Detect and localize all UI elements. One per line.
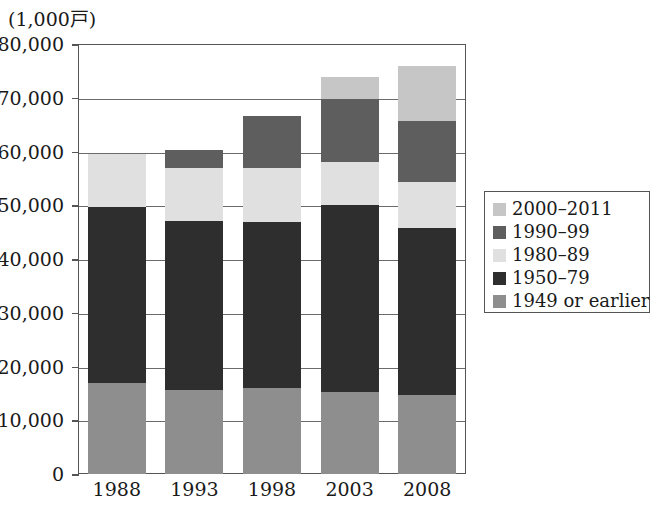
x-axis-tick-label: 1993 (170, 478, 218, 500)
y-axis-unit-label: (1,000戸) (8, 4, 96, 31)
y-axis-tick-label: 20,000 (0, 356, 64, 378)
bar-segment (398, 182, 456, 228)
y-axis-tick-label: 0 (52, 463, 64, 485)
y-axis-tick-mark (72, 474, 79, 476)
y-axis-tick-mark (72, 420, 79, 422)
bar-segment (321, 77, 379, 99)
y-axis-tick-label: 40,000 (0, 248, 64, 270)
bar-segment (321, 162, 379, 205)
legend: 2000–20111990–991980–891950–791949 or ea… (484, 191, 650, 313)
legend-swatch-icon (493, 295, 506, 308)
legend-swatch-icon (493, 249, 506, 262)
bar-segment (88, 383, 146, 474)
bar-segment (321, 205, 379, 392)
legend-label: 1949 or earlier (512, 292, 649, 310)
x-axis-labels: 19881993199820032008 (78, 478, 466, 504)
y-axis-tick-label: 10,000 (0, 409, 64, 431)
y-axis-tick-mark (72, 313, 79, 315)
bar-segment (398, 395, 456, 474)
bar-segment (321, 99, 379, 162)
x-axis-tick-label: 1988 (93, 478, 141, 500)
bar-segment (165, 390, 223, 474)
y-axis-tick-label: 60,000 (0, 141, 64, 163)
y-axis-tick-label: 80,000 (0, 33, 64, 55)
bar-segment (321, 392, 379, 474)
legend-label: 1950–79 (512, 269, 590, 287)
y-axis-tick-mark (72, 259, 79, 261)
legend-item[interactable]: 1980–89 (493, 244, 643, 266)
bars-layer (78, 44, 466, 474)
y-axis-tick-label: 30,000 (0, 302, 64, 324)
bar-segment (165, 150, 223, 168)
x-axis-tick-label: 2003 (325, 478, 373, 500)
legend-item[interactable]: 1949 or earlier (493, 290, 643, 312)
bar-group-2003 (321, 44, 379, 474)
bar-segment (165, 221, 223, 390)
bar-segment (243, 388, 301, 474)
legend-item[interactable]: 2000–2011 (493, 198, 643, 220)
bar-segment (243, 168, 301, 222)
legend-item[interactable]: 1990–99 (493, 221, 643, 243)
y-axis-tick-mark (72, 205, 79, 207)
y-axis-tick-mark (72, 44, 79, 46)
y-axis-tick-label: 70,000 (0, 87, 64, 109)
bar-group-1993 (165, 44, 223, 474)
legend-label: 1990–99 (512, 223, 590, 241)
legend-swatch-icon (493, 203, 506, 216)
legend-label: 1980–89 (512, 246, 590, 264)
bar-group-1998 (243, 44, 301, 474)
y-axis-tick-label: 50,000 (0, 194, 64, 216)
bar-segment (88, 207, 146, 383)
bar-segment (165, 168, 223, 221)
legend-swatch-icon (493, 272, 506, 285)
y-axis-tick-mark (72, 98, 79, 100)
bar-group-1988 (88, 44, 146, 474)
bar-segment (398, 228, 456, 395)
bar-segment (398, 121, 456, 181)
bar-segment (243, 222, 301, 388)
bar-segment (88, 154, 146, 207)
y-axis-labels: 010,00020,00030,00040,00050,00060,00070,… (0, 44, 70, 474)
bar-segment (398, 66, 456, 122)
legend-label: 2000–2011 (512, 200, 613, 218)
legend-item[interactable]: 1950–79 (493, 267, 643, 289)
bar-group-2008 (398, 44, 456, 474)
x-axis-tick-label: 1998 (248, 478, 296, 500)
x-axis-tick-label: 2008 (403, 478, 451, 500)
y-axis-tick-mark (72, 152, 79, 154)
bar-segment (243, 116, 301, 168)
legend-swatch-icon (493, 226, 506, 239)
y-axis-tick-mark (72, 367, 79, 369)
stacked-bar-chart: (1,000戸) 010,00020,00030,00040,00050,000… (0, 0, 656, 505)
